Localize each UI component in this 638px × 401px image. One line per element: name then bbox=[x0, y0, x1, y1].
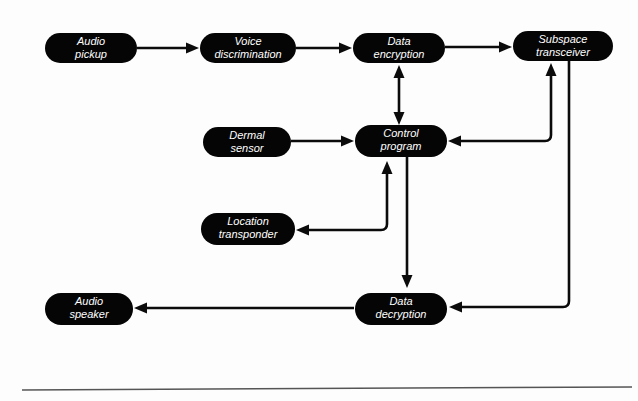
node-dermal-sensor[interactable]: Dermal sensor bbox=[203, 127, 291, 157]
edge-voice-discrimination-to-data-encryption bbox=[296, 43, 352, 54]
node-subspace-transceiver[interactable]: Subspace transceiver bbox=[513, 31, 613, 61]
node-control-program-label-line2: program bbox=[380, 140, 422, 152]
node-audio-speaker-label-line1: Audio bbox=[74, 295, 103, 307]
node-subspace-transceiver-label-line2: transceiver bbox=[536, 46, 591, 58]
node-data-decryption[interactable]: Data decryption bbox=[355, 293, 447, 325]
node-data-decryption-label-line2: decryption bbox=[376, 308, 427, 320]
node-location-transponder[interactable]: Location transponder bbox=[201, 213, 295, 245]
flow-diagram-svg: Audio pickup Voice discrimination Data e… bbox=[0, 0, 638, 401]
node-audio-pickup-label-line1: Audio bbox=[76, 35, 105, 47]
edge-data-decryption-to-audio-speaker bbox=[134, 303, 354, 314]
edge-data-encryption-control-program bbox=[394, 65, 405, 125]
node-voice-discrimination-label-line2: discrimination bbox=[214, 48, 281, 60]
node-location-transponder-label-line2: transponder bbox=[219, 228, 279, 240]
node-dermal-sensor-label-line1: Dermal bbox=[229, 129, 265, 141]
node-subspace-transceiver-label-line1: Subspace bbox=[539, 33, 588, 45]
edge-data-encryption-to-subspace-transceiver bbox=[445, 42, 512, 53]
node-audio-pickup[interactable]: Audio pickup bbox=[45, 33, 137, 63]
node-layer: Audio pickup Voice discrimination Data e… bbox=[45, 31, 613, 325]
edge-layer bbox=[134, 42, 569, 314]
node-voice-discrimination-label-line1: Voice bbox=[234, 35, 261, 47]
edge-dermal-sensor-to-control-program bbox=[291, 136, 354, 147]
node-data-encryption-label-line1: Data bbox=[387, 35, 410, 47]
node-control-program[interactable]: Control program bbox=[355, 125, 447, 157]
edge-control-program-location-transponder bbox=[296, 161, 393, 236]
block-diagram-canvas: Audio pickup Voice discrimination Data e… bbox=[0, 0, 638, 401]
node-control-program-label-line1: Control bbox=[383, 127, 419, 139]
node-audio-speaker[interactable]: Audio speaker bbox=[45, 293, 133, 325]
node-voice-discrimination[interactable]: Voice discrimination bbox=[200, 33, 296, 63]
bottom-rule bbox=[22, 387, 632, 390]
edge-audio-pickup-to-voice-discrimination bbox=[137, 43, 199, 54]
node-audio-speaker-label-line2: speaker bbox=[69, 308, 109, 320]
edge-control-program-to-data-decryption bbox=[402, 157, 413, 288]
node-data-encryption[interactable]: Data encryption bbox=[353, 33, 445, 63]
node-data-decryption-label-line1: Data bbox=[389, 295, 412, 307]
node-location-transponder-label-line1: Location bbox=[227, 215, 269, 227]
node-audio-pickup-label-line2: pickup bbox=[74, 48, 107, 60]
node-data-encryption-label-line2: encryption bbox=[374, 48, 425, 60]
edge-control-program-subspace-transceiver bbox=[448, 63, 557, 147]
node-dermal-sensor-label-line2: sensor bbox=[230, 142, 264, 154]
